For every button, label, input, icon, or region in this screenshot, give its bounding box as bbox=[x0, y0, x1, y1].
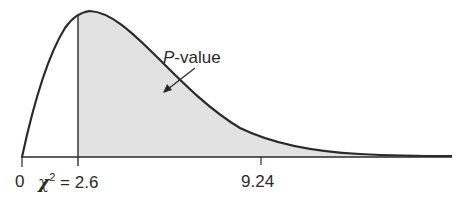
chi-square-plot bbox=[0, 0, 459, 198]
tick-label-9-24: 9.24 bbox=[241, 172, 274, 192]
chi-exponent: 2 bbox=[49, 171, 55, 183]
tick-label-zero: 0 bbox=[15, 172, 24, 192]
test-statistic-value: 2.6 bbox=[75, 173, 99, 192]
p-value-label: P-value bbox=[163, 48, 221, 68]
p-value-label-italic: P bbox=[163, 48, 174, 67]
test-statistic-label: χ2 = 2.6 bbox=[38, 171, 98, 193]
equals-sign: = bbox=[60, 173, 70, 192]
p-value-label-rest: -value bbox=[174, 48, 220, 67]
chi-symbol: χ bbox=[38, 172, 49, 192]
p-value-shaded-area bbox=[78, 11, 452, 157]
